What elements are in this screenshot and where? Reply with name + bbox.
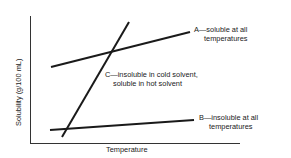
annotation-b-line2: temperatures — [199, 123, 258, 132]
annotation-a-line2: temperatures — [194, 35, 248, 44]
solubility-chart: A—soluble at all temperatures C—insolubl… — [0, 0, 291, 158]
annotation-c: C—insoluble in cold solvent, soluble in … — [105, 71, 198, 88]
x-axis-label: Temperature — [106, 146, 148, 155]
y-axis-label: Solubility (g/100 mL) — [14, 59, 23, 126]
annotation-b: B—insoluble at all temperatures — [199, 114, 258, 131]
annotation-a: A—soluble at all temperatures — [194, 26, 248, 43]
annotation-c-line2: soluble in hot solvent — [105, 80, 198, 89]
